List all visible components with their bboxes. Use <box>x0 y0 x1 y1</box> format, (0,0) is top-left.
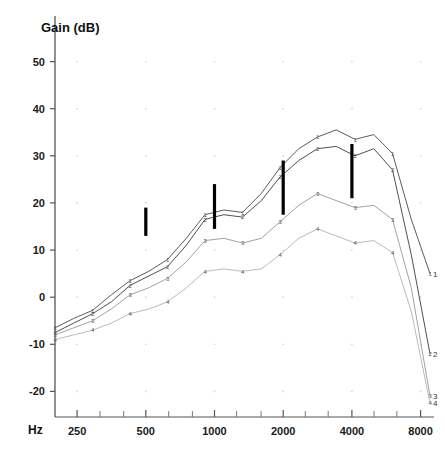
grid-dot <box>145 61 147 63</box>
y-tick-label: 30 <box>33 150 45 162</box>
grid-dot <box>145 391 147 393</box>
grid-dot <box>76 108 78 110</box>
series-end-label-2: 2 <box>433 350 438 359</box>
grid-dot <box>420 61 422 63</box>
grid-dot <box>420 296 422 298</box>
grid-dot <box>214 108 216 110</box>
grid-dot <box>282 391 284 393</box>
y-tick-label: -20 <box>29 385 45 397</box>
grid-dot <box>420 202 422 204</box>
grid-dot <box>351 343 353 345</box>
y-tick-label: 40 <box>33 103 45 115</box>
y-tick-label: 50 <box>33 56 45 68</box>
grid-dot <box>76 249 78 251</box>
series-end-label-1: 1 <box>433 270 438 279</box>
chart-background <box>0 0 445 460</box>
grid-dot <box>76 155 78 157</box>
grid-dot <box>214 296 216 298</box>
x-tick-label: 8000 <box>408 425 432 437</box>
grid-dot <box>76 343 78 345</box>
grid-dot <box>214 61 216 63</box>
grid-dot <box>145 343 147 345</box>
grid-dot <box>420 155 422 157</box>
grid-dot <box>76 391 78 393</box>
grid-dot <box>282 108 284 110</box>
grid-dot <box>76 296 78 298</box>
grid-dot <box>282 155 284 157</box>
x-tick-label: 4000 <box>340 425 364 437</box>
x-tick-label: 1000 <box>202 425 226 437</box>
y-tick-label: 20 <box>33 197 45 209</box>
grid-dot <box>351 61 353 63</box>
x-tick-label: 500 <box>137 425 155 437</box>
grid-dot <box>145 296 147 298</box>
grid-dot <box>214 343 216 345</box>
grid-dot <box>351 108 353 110</box>
gain-frequency-chart: 50403020100-10-20 2505001000200040008000… <box>0 0 445 460</box>
grid-dot <box>420 108 422 110</box>
series-end-label-4: 4 <box>433 399 438 408</box>
grid-dot <box>145 108 147 110</box>
y-tick-label: 0 <box>39 291 45 303</box>
y-tick-label: -10 <box>29 338 45 350</box>
x-axis-unit-label: Hz <box>28 423 43 437</box>
grid-dot <box>351 202 353 204</box>
grid-dot <box>145 249 147 251</box>
grid-dot <box>214 391 216 393</box>
grid-dot <box>282 343 284 345</box>
grid-dot <box>76 202 78 204</box>
grid-dot <box>420 391 422 393</box>
grid-dot <box>282 61 284 63</box>
grid-dot <box>282 296 284 298</box>
grid-dot <box>214 249 216 251</box>
x-tick-label: 2000 <box>271 425 295 437</box>
grid-dot <box>145 155 147 157</box>
grid-dot <box>145 202 147 204</box>
grid-dot <box>282 249 284 251</box>
y-tick-label: 10 <box>33 244 45 256</box>
x-tick-label: 250 <box>68 425 86 437</box>
y-axis-title: Gain (dB) <box>41 20 100 35</box>
grid-dot <box>351 296 353 298</box>
chart-svg: 50403020100-10-20 2505001000200040008000… <box>0 0 445 460</box>
grid-dot <box>76 61 78 63</box>
grid-dot <box>351 249 353 251</box>
grid-dot <box>351 391 353 393</box>
grid-dot <box>214 155 216 157</box>
